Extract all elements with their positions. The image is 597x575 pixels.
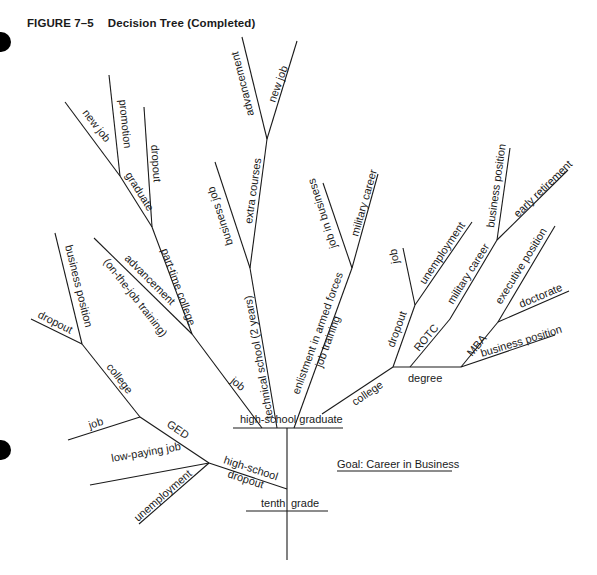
label-dropout-right: dropout — [385, 310, 409, 349]
label-new-job-grad: new job — [80, 107, 113, 144]
label-college-right: college — [349, 378, 385, 407]
label-advancement-top: advancement — [228, 50, 256, 117]
goal-label: Goal: Career in Business — [337, 458, 460, 470]
unemployment-right-line — [415, 222, 472, 305]
label-new-job-top: new job — [266, 64, 290, 104]
unemployment-left-line — [139, 463, 209, 524]
label-early-retirement: early retirement — [511, 158, 574, 220]
label-business-position-right: business position — [479, 323, 563, 359]
job-left-line — [68, 417, 140, 440]
label-hs-graduate: high-school graduate — [240, 413, 343, 425]
decision-tree: high-school graduate tenth grade Goal: C… — [0, 0, 597, 575]
college-left-line — [82, 344, 140, 417]
label-ged: GED — [165, 418, 192, 441]
label-grade: grade — [291, 497, 319, 509]
label-degree: degree — [408, 372, 442, 384]
college-right-line — [322, 367, 393, 414]
label-job-mid: job — [228, 374, 248, 393]
label-military-career-right: military career — [445, 241, 492, 306]
label-tenth: tenth — [261, 497, 285, 509]
label-business-job: business job — [205, 185, 235, 247]
label-low-paying-job: low-paying job — [110, 440, 181, 464]
job-right-line — [403, 248, 415, 305]
label-promotion: promotion — [117, 99, 134, 149]
label-dropout-ptc: dropout — [149, 144, 164, 182]
label-doctorate: doctorate — [517, 281, 564, 310]
promotion-line — [109, 75, 120, 176]
label-job-right: job — [387, 248, 402, 266]
